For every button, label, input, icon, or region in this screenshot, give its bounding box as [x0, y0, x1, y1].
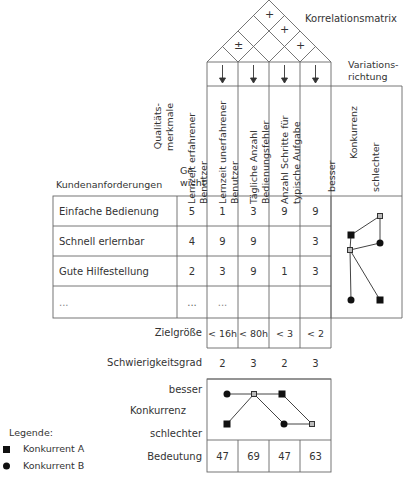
weight-cell: 5	[177, 196, 207, 226]
col4-line2: typische Aufgabe	[291, 116, 303, 204]
legend-circle-icon	[3, 463, 10, 470]
legend-item-a: Konkurrent A	[23, 443, 84, 454]
weight-cell: ...	[177, 286, 207, 318]
col1-line1: Lernzeit erfahrener	[186, 113, 198, 204]
target-cell: < 3	[269, 318, 300, 348]
competition-label: Konkurrenz	[348, 106, 360, 159]
target-cell: < 2	[300, 318, 331, 348]
column-header-3: Tägliche Anzahl Bedienungsfehler	[248, 120, 272, 204]
correlation-symbol: +	[280, 23, 289, 36]
difficulty-cell: 2	[269, 348, 300, 379]
legend-square-icon	[3, 446, 10, 453]
variation-line2: richtung	[348, 71, 399, 83]
value-cell: 9	[300, 196, 331, 226]
qf-line1: Qualitäts-	[152, 103, 164, 153]
value-cell: 9	[207, 226, 238, 256]
competition-better-label: besser	[326, 160, 338, 192]
difficulty-label: Schwierigkeitsgrad	[80, 357, 202, 368]
correlation-symbol: +	[265, 8, 274, 21]
correlation-symbol: ±	[234, 39, 243, 52]
importance-cell: 47	[269, 440, 300, 472]
value-cell: 3	[300, 256, 331, 286]
correlation-symbol: +	[296, 39, 305, 52]
variation-line1: Variations-	[348, 59, 399, 71]
target-cell: < 16h	[207, 318, 238, 348]
legend-title: Legende:	[9, 427, 53, 438]
weight-cell: 4	[177, 226, 207, 256]
correlation-matrix-title: Korrelationsmatrix	[305, 13, 397, 24]
importance-label: Bedeutung	[120, 451, 202, 462]
col2-line2: Benutzer	[229, 101, 241, 204]
value-cell: 9	[238, 226, 269, 256]
importance-cell: 47	[207, 440, 238, 472]
value-cell: 9	[238, 256, 269, 286]
column-header-2: Lernzeit unerfahrener Benutzer	[217, 101, 241, 204]
column-header-1: Lernzeit erfahrener Benutzer	[186, 113, 210, 204]
col3-line2: Bedienungsfehler	[260, 120, 272, 204]
value-cell: 9	[269, 196, 300, 226]
quality-features-label: Qualitäts- merkmale	[152, 103, 176, 153]
weight-cell: 2	[177, 256, 207, 286]
requirement-cell: Schnell erlernbar	[53, 226, 177, 256]
requirement-cell: Gute Hilfestellung	[53, 256, 177, 286]
importance-cell: 69	[238, 440, 269, 472]
target-cell: < 80h	[238, 318, 269, 348]
competition-plot-requirements	[350, 216, 380, 300]
requirement-cell: ...	[53, 286, 177, 318]
value-cell: 1	[269, 256, 300, 286]
col4-line1: Anzahl Schritte für	[279, 116, 291, 204]
value-cell: 3	[300, 226, 331, 256]
competition-label-bottom: Konkurrenz	[130, 405, 186, 416]
variation-direction-label: Variations- richtung	[348, 59, 399, 83]
col1-line2: Benutzer	[198, 113, 210, 204]
difficulty-cell: 3	[300, 348, 331, 379]
requirement-cell: Einfache Bedienung	[53, 196, 177, 226]
competition-worse-label: schlechter	[370, 143, 382, 192]
target-label: Zielgröße	[120, 327, 202, 338]
customer-requirements-header: Kundenanforderungen	[56, 179, 162, 190]
legend-item-b: Konkurrent B	[23, 460, 84, 471]
value-cell	[269, 226, 300, 256]
importance-cell: 63	[300, 440, 331, 472]
difficulty-cell: 2	[207, 348, 238, 379]
competition-worse-bottom: schlechter	[140, 428, 202, 439]
difficulty-cell: 3	[238, 348, 269, 379]
competition-plot-features	[227, 394, 312, 424]
value-cell: 1	[207, 196, 238, 226]
column-header-4: Anzahl Schritte für typische Aufgabe	[279, 116, 303, 204]
value-cell: 3	[207, 256, 238, 286]
value-cell: 3	[238, 196, 269, 226]
col3-line1: Tägliche Anzahl	[248, 120, 260, 204]
competition-better-bottom: besser	[140, 384, 202, 395]
value-cell: ...	[207, 286, 238, 318]
col2-line1: Lernzeit unerfahrener	[217, 101, 229, 204]
qf-line2: merkmale	[164, 103, 176, 153]
